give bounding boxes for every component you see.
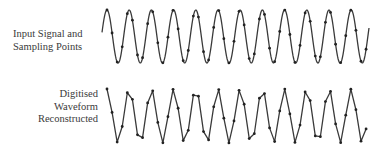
reconstructed-point	[314, 135, 317, 138]
sample-point	[233, 40, 236, 43]
reconstructed-point	[161, 141, 164, 144]
sample-point	[365, 48, 368, 51]
reconstructed-point	[248, 137, 251, 140]
reconstructed-point	[324, 100, 327, 103]
reconstructed-point	[319, 135, 322, 138]
reconstructed-point	[344, 114, 347, 117]
reconstructed-polyline	[107, 89, 366, 143]
sample-point	[243, 24, 246, 27]
sample-point	[151, 10, 154, 13]
reconstructed-point	[365, 128, 368, 131]
reconstructed-point	[304, 91, 307, 94]
reconstructed-point	[126, 91, 129, 94]
reconstructed-point	[121, 125, 124, 128]
sample-point	[273, 60, 276, 63]
reconstructed-point	[349, 88, 352, 91]
reconstructed-point	[334, 123, 337, 126]
sample-point	[294, 61, 297, 64]
sample-point	[299, 44, 302, 47]
sample-point	[202, 50, 205, 53]
sample-point	[268, 47, 271, 50]
sample-point	[212, 26, 215, 29]
reconstructed-point	[263, 92, 266, 95]
sample-point	[156, 41, 159, 44]
reconstructed-point	[238, 89, 241, 92]
sample-point	[349, 9, 352, 12]
sample-point	[288, 33, 291, 36]
reconstructed-point	[106, 88, 109, 91]
sample-point	[278, 30, 281, 33]
sample-point	[344, 34, 347, 37]
reconstructed-point	[243, 103, 246, 106]
sample-point	[309, 20, 312, 23]
reconstructed-point	[228, 142, 231, 145]
reconstructed-point	[288, 113, 291, 116]
reconstructed-point	[233, 120, 236, 123]
sample-point	[172, 9, 175, 12]
reconstructed-point	[202, 130, 205, 133]
reconstructed-point	[299, 124, 302, 127]
reconstructed-point	[141, 136, 144, 139]
reconstructed-point	[355, 108, 358, 111]
sample-point	[197, 16, 200, 19]
reconstructed-point	[258, 97, 261, 100]
sample-point	[238, 10, 241, 13]
reconstructed-point	[222, 117, 225, 120]
reconstructed-point	[360, 140, 363, 143]
reconstructed-point	[217, 88, 220, 91]
reconstructed-point	[182, 139, 185, 142]
reconstructed-point	[167, 115, 170, 118]
reconstructed-point	[283, 88, 286, 91]
reconstructed-point	[192, 94, 195, 97]
sample-point	[121, 45, 124, 48]
sample-point	[136, 54, 139, 57]
sample-point	[263, 13, 266, 16]
reconstructed-point	[197, 95, 200, 98]
reconstructed-point	[172, 88, 175, 91]
sample-point	[334, 43, 337, 46]
reconstructed-point	[136, 133, 139, 136]
sample-point	[228, 62, 231, 65]
sample-point	[111, 32, 114, 35]
sample-point	[131, 19, 134, 22]
reconstructed-point	[207, 139, 210, 142]
sample-point	[329, 11, 332, 14]
sample-point	[192, 15, 195, 18]
sample-point	[339, 61, 342, 64]
reconstructed-point	[177, 107, 180, 110]
reconstructed-point	[278, 110, 281, 113]
sample-point	[161, 61, 164, 64]
reconstructed-point	[151, 89, 154, 92]
reconstructed-point	[212, 105, 215, 108]
reconstructed-point	[294, 141, 297, 144]
sample-point	[217, 9, 220, 12]
reconstructed-wave	[106, 88, 368, 145]
sample-point	[283, 9, 286, 12]
reconstructed-point	[187, 129, 190, 132]
sample-point	[355, 29, 358, 32]
sample-point	[187, 49, 190, 52]
sample-point	[314, 55, 317, 58]
reconstructed-point	[268, 126, 271, 129]
sample-point	[207, 59, 210, 62]
reconstructed-point	[329, 90, 332, 93]
sample-point	[141, 56, 144, 59]
sample-point	[167, 36, 170, 39]
reconstructed-point	[273, 140, 276, 143]
input-signal-wave	[102, 9, 369, 65]
sample-point	[253, 52, 256, 55]
sample-point	[319, 55, 322, 58]
sample-point	[177, 27, 180, 30]
sample-point	[258, 18, 261, 21]
sample-point	[106, 9, 109, 12]
waveform-diagram	[0, 0, 389, 153]
reconstructed-point	[111, 111, 114, 114]
reconstructed-point	[339, 141, 342, 144]
sample-point	[116, 61, 119, 64]
sample-point	[304, 12, 307, 15]
sample-point	[324, 21, 327, 24]
sample-point	[360, 60, 363, 63]
reconstructed-point	[131, 98, 134, 101]
sampling-points	[106, 9, 368, 65]
sample-point	[222, 37, 225, 40]
